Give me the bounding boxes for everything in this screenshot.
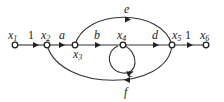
node-x6 <box>203 42 209 48</box>
gain-label-x1-x2: 1 <box>28 28 34 42</box>
gain-label-c: c <box>128 66 134 80</box>
node-label-x1: x1 <box>7 28 17 43</box>
arrow-icon <box>187 42 193 48</box>
arrow-icon <box>95 42 101 48</box>
gain-label-f: f <box>124 85 129 99</box>
node-x5 <box>169 42 175 48</box>
node-label-x5: x5 <box>171 28 181 43</box>
arrow-icon <box>33 42 39 48</box>
gain-label-d: d <box>152 28 159 42</box>
gain-label-e: e <box>124 2 130 16</box>
node-label-x2: x2 <box>40 28 50 43</box>
node-x1 <box>12 42 18 48</box>
node-x4 <box>120 42 126 48</box>
node-label-x6: x6 <box>199 28 209 43</box>
gain-label-x5-x6: 1 <box>185 28 191 42</box>
signal-flow-graph: x1 x2 x3 x4 x5 x6 1 a b c d e f 1 <box>0 0 224 102</box>
gain-label-a: a <box>59 28 65 42</box>
gain-label-b: b <box>94 28 100 42</box>
arrow-icon <box>59 42 65 48</box>
node-label-x4: x4 <box>116 28 126 43</box>
arrow-icon <box>153 42 159 48</box>
node-label-x3: x3 <box>72 47 82 62</box>
node-x2 <box>44 42 50 48</box>
